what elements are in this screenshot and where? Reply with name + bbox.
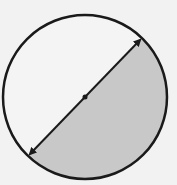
circle-diagram	[0, 0, 177, 185]
center-point	[83, 95, 88, 100]
